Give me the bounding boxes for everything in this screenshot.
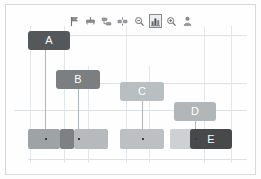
task-box-d[interactable]: D xyxy=(174,102,216,121)
task-label-b: B xyxy=(74,74,82,85)
summary-bar-2[interactable] xyxy=(60,129,74,149)
link-task-icon xyxy=(101,16,112,27)
zoom-out-icon-button[interactable] xyxy=(133,14,146,28)
diagram-toolbar[interactable] xyxy=(68,11,194,31)
task-box-a[interactable]: A xyxy=(28,31,70,50)
milestone-flag-icon xyxy=(69,16,80,27)
zoom-in-icon-button[interactable] xyxy=(165,14,178,28)
bar-chart-icon xyxy=(150,16,161,27)
zoom-in-icon xyxy=(166,16,177,27)
connector-endpoint-dot xyxy=(195,138,197,140)
task-box-c[interactable]: C xyxy=(120,82,164,101)
zoom-out-icon xyxy=(134,16,145,27)
connector-endpoint-dot xyxy=(45,138,47,140)
task-label-a: A xyxy=(45,35,53,46)
resource-icon-button[interactable] xyxy=(181,14,194,28)
milestone-flag-icon-button[interactable] xyxy=(68,14,81,28)
link-task-icon-button[interactable] xyxy=(100,14,113,28)
summary-task-icon xyxy=(85,16,96,27)
task-label-c: C xyxy=(138,86,146,97)
split-task-icon-button[interactable] xyxy=(116,14,129,28)
connector-endpoint-dot xyxy=(142,138,144,140)
connector-endpoint-dot xyxy=(78,138,80,140)
gantt-canvas[interactable]: A B C D E xyxy=(14,26,247,163)
task-label-d: D xyxy=(191,106,199,117)
bar-chart-icon-button[interactable] xyxy=(149,14,162,28)
split-task-icon xyxy=(117,16,128,27)
diagram-application: A B C D E xyxy=(0,0,261,179)
resource-icon xyxy=(182,16,193,27)
summary-bar-1[interactable] xyxy=(28,129,60,149)
summary-task-icon-button[interactable] xyxy=(84,14,97,28)
task-box-b[interactable]: B xyxy=(56,70,100,89)
task-label-e: E xyxy=(207,134,215,145)
